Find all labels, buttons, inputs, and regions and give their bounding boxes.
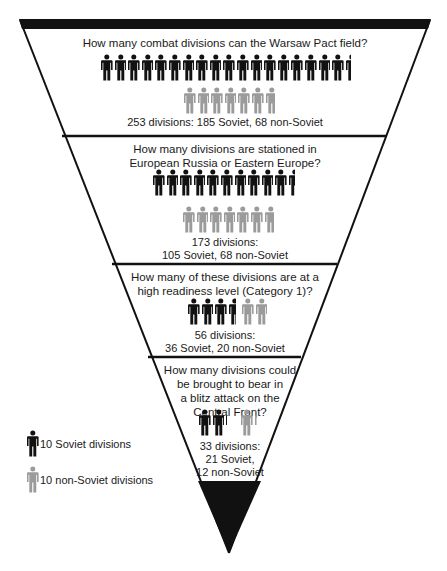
- person-figure-icon-black: [263, 54, 277, 81]
- person-figure-icon-black: [261, 169, 275, 196]
- person-figure-icon-black: [152, 169, 166, 196]
- section-2-non-soviet-icons: [182, 206, 274, 233]
- section-4-question-line-3: a blitz attack on the: [160, 391, 300, 405]
- person-figure-icon-black: [234, 169, 248, 196]
- section-4-summary-line-2: 21 Soviet,: [170, 453, 290, 466]
- person-figure-icon-gray: [255, 298, 269, 325]
- person-figure-icon-black: [100, 54, 114, 81]
- person-figure-icon-gray: [182, 206, 196, 233]
- person-figure-icon-black: [209, 54, 223, 81]
- person-figure-icon-black: [182, 54, 196, 81]
- person-figure-icon-black: [225, 409, 227, 436]
- person-figure-icon-black: [250, 54, 264, 81]
- person-figure-icon-black: [220, 169, 234, 196]
- person-figure-icon-black: [193, 169, 207, 196]
- legend-soviet-label: 10 Soviet divisions: [40, 438, 131, 450]
- section-3-soviet-icons: [187, 298, 236, 325]
- person-figure-icon-gray: [237, 87, 251, 114]
- section-2-question-line-2: European Russia or Eastern Europe?: [90, 156, 360, 170]
- section-4-non-soviet-icons: [240, 409, 257, 436]
- person-figure-icon-gray: [240, 409, 254, 436]
- section-2-soviet-icons: [152, 169, 295, 196]
- section-4-question-line-4: Central Front?: [160, 405, 300, 419]
- section-3-summary: 56 divisions: 36 Soviet, 20 non-Soviet: [140, 329, 310, 355]
- person-figure-icon-gray: [209, 206, 223, 233]
- section-1-question: How many combat divisions can the Warsaw…: [60, 36, 390, 50]
- person-figure-icon-gray: [26, 466, 39, 493]
- person-figure-icon-gray: [241, 298, 255, 325]
- section-2-summary-line-2: 105 Soviet, 68 non-Soviet: [100, 249, 350, 262]
- section-1-non-soviet-icons: [183, 87, 275, 114]
- person-figure-icon-black: [318, 54, 332, 81]
- legend-non-soviet-label: 10 non-Soviet divisions: [40, 474, 153, 486]
- section-2-question: How many divisions are stationed in Euro…: [90, 142, 360, 170]
- person-figure-icon-gray: [210, 87, 224, 114]
- person-figure-icon-gray: [224, 87, 238, 114]
- person-figure-icon-black: [277, 54, 291, 81]
- person-figure-icon-black: [127, 54, 141, 81]
- section-4-summary-line-3: 12 non-Soviet: [170, 466, 290, 479]
- person-figure-icon-black: [290, 54, 304, 81]
- person-figure-icon-black: [288, 169, 295, 196]
- person-figure-icon-black: [331, 54, 345, 81]
- section-4-question-line-1: How many divisions could: [160, 363, 300, 377]
- person-figure-icon-gray: [264, 206, 274, 233]
- person-figure-icon-gray: [250, 206, 264, 233]
- person-figure-icon-gray: [251, 87, 265, 114]
- person-figure-icon-black: [195, 54, 209, 81]
- section-3-summary-line-1: 56 divisions:: [140, 329, 310, 342]
- person-figure-icon-black: [198, 409, 212, 436]
- person-figure-icon-black: [304, 54, 318, 81]
- person-figure-icon-gray: [223, 206, 237, 233]
- section-4-soviet-icons: [198, 409, 227, 436]
- section-3-question-line-2: high readiness level (Category 1)?: [120, 284, 330, 298]
- person-figure-icon-black: [206, 169, 220, 196]
- person-figure-icon-gray: [236, 206, 250, 233]
- legend-non-soviet-icon: [26, 466, 39, 493]
- section-2-summary: 173 divisions: 105 Soviet, 68 non-Soviet: [100, 236, 350, 262]
- person-figure-icon-gray: [197, 87, 211, 114]
- person-figure-icon-black: [222, 54, 236, 81]
- person-figure-icon-black: [212, 409, 226, 436]
- legend-item-non-soviet: 10 non-Soviet divisions: [26, 466, 153, 493]
- section-2-summary-line-1: 173 divisions:: [100, 236, 350, 249]
- section-4-question: How many divisions could be brought to b…: [160, 363, 300, 419]
- section-3-question: How many of these divisions are at a hig…: [120, 270, 330, 298]
- person-figure-icon-black: [345, 54, 352, 81]
- section-3-non-soviet-icons: [241, 298, 268, 325]
- person-figure-icon-black: [154, 54, 168, 81]
- person-figure-icon-black: [166, 169, 180, 196]
- person-figure-icon-black: [201, 298, 215, 325]
- person-figure-icon-gray: [254, 409, 257, 436]
- person-figure-icon-gray: [196, 206, 210, 233]
- section-1-summary: 253 divisions: 185 Soviet, 68 non-Soviet: [80, 116, 370, 129]
- person-figure-icon-black: [168, 54, 182, 81]
- person-figure-icon-black: [114, 54, 128, 81]
- person-figure-icon-gray: [183, 87, 197, 114]
- person-figure-icon-black: [214, 298, 228, 325]
- person-figure-icon-black: [179, 169, 193, 196]
- person-figure-icon-black: [187, 298, 201, 325]
- person-figure-icon-gray: [265, 87, 275, 114]
- legend-soviet-icon: [26, 430, 39, 457]
- person-figure-icon-black: [236, 54, 250, 81]
- person-figure-icon-black: [26, 430, 39, 457]
- person-figure-icon-black: [247, 169, 261, 196]
- section-1-soviet-icons: [100, 54, 351, 81]
- legend-item-soviet: 10 Soviet divisions: [26, 430, 131, 457]
- section-4-question-line-2: be brought to bear in: [160, 377, 300, 391]
- person-figure-icon-black: [274, 169, 288, 196]
- section-2-question-line-1: How many divisions are stationed in: [90, 142, 360, 156]
- person-figure-icon-black: [228, 298, 236, 325]
- person-figure-icon-black: [141, 54, 155, 81]
- section-4-summary: 33 divisions: 21 Soviet, 12 non-Soviet: [170, 440, 290, 479]
- bottom-black-tip: [198, 481, 261, 553]
- top-bar: [19, 19, 431, 29]
- section-3-summary-line-2: 36 Soviet, 20 non-Soviet: [140, 342, 310, 355]
- section-3-question-line-1: How many of these divisions are at a: [120, 270, 330, 284]
- section-4-summary-line-1: 33 divisions:: [170, 440, 290, 453]
